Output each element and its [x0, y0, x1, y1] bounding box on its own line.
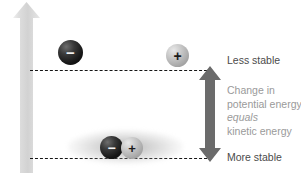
positive-charge-sphere-icon: +	[121, 137, 143, 159]
delta-energy-caption: Change in potential energy equals kineti…	[227, 84, 301, 138]
double-headed-vertical-arrow-icon	[198, 66, 222, 162]
label-less-stable: Less stable	[227, 54, 280, 66]
label-more-stable: More stable	[227, 151, 282, 163]
energy-level-line-upper	[30, 70, 212, 71]
up-arrow-icon	[13, 2, 40, 173]
delta-caption-line-1: Change in	[227, 84, 301, 98]
negative-charge-sphere-icon: −	[58, 40, 83, 65]
positive-charge-sphere-icon: +	[166, 44, 189, 67]
delta-caption-line-2: potential energy	[227, 98, 301, 112]
delta-caption-line-3: equals	[227, 111, 301, 125]
delta-caption-line-4: kinetic energy	[227, 125, 301, 139]
potential-energy-diagram: Potential Energy − + − + Less stable Cha…	[0, 0, 301, 175]
delta-caption-emphasis: equals	[227, 111, 258, 123]
negative-charge-sphere-icon: −	[100, 136, 123, 159]
